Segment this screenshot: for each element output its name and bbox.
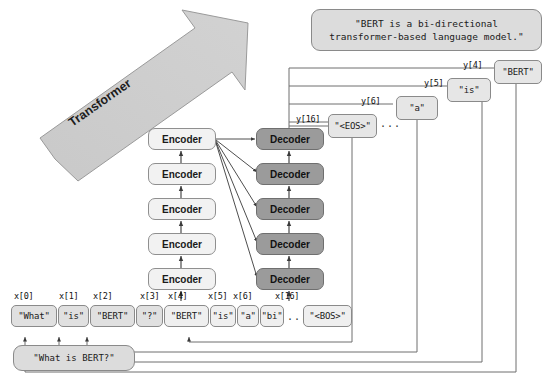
input-index-3: x[3] [140,291,159,301]
transformer-diagram: Transformer "BERT is a bi-directional tr… [0,0,548,392]
encoder-block-1[interactable]: Encoder [148,268,216,290]
question-bubble: "What is BERT?" [13,345,135,371]
output-token-16[interactable]: "<EOS>" [328,114,377,138]
encoder-block-3[interactable]: Encoder [148,198,216,220]
output-index-5: y[5] [424,78,443,88]
input-index-16: x[16] [275,291,299,301]
input-token-6[interactable]: "a" [237,305,259,327]
input-token-7[interactable]: "bi" [260,305,284,327]
answer-bubble: "BERT is a bi-directional transformer-ba… [311,9,542,51]
connector-layer [0,0,548,392]
decoder-block-2[interactable]: Decoder [256,233,324,255]
cross-attention-arrows [216,139,257,277]
input-index-2: x[2] [93,291,112,301]
decoder-block-4[interactable]: Decoder [256,163,324,185]
input-index-6: x[6] [233,291,252,301]
encoder-block-5[interactable]: Encoder [148,128,216,150]
input-token-16[interactable]: "<BOS>" [303,305,352,327]
input-index-0: x[0] [14,291,33,301]
output-index-6: y[6] [361,96,380,106]
output-token-5[interactable]: "is" [447,78,491,102]
input-token-1[interactable]: "is" [58,305,89,327]
encoder-block-2[interactable]: Encoder [148,233,216,255]
input-token-4[interactable]: "BERT" [164,305,209,327]
output-index-4: y[4] [463,60,482,70]
input-token-0[interactable]: "What" [11,305,57,327]
input-index-4: x[4] [168,291,187,301]
input-token-5[interactable]: "is" [210,305,236,327]
transformer-arrow [40,7,248,181]
decoder-block-1[interactable]: Decoder [256,268,324,290]
input-token-2[interactable]: "BERT" [90,305,135,327]
output-token-4[interactable]: "BERT" [494,60,542,84]
encoder-block-4[interactable]: Encoder [148,163,216,185]
input-index-5: x[5] [208,291,227,301]
output-index-16: y[16] [296,114,320,124]
decoder-block-3[interactable]: Decoder [256,198,324,220]
input-token-3[interactable]: "?" [136,305,163,327]
input-index-1: x[1] [59,291,78,301]
output-token-6[interactable]: "a" [396,96,438,120]
decoder-block-5[interactable]: Decoder [256,128,324,150]
output-ellipsis: ... [380,118,401,129]
